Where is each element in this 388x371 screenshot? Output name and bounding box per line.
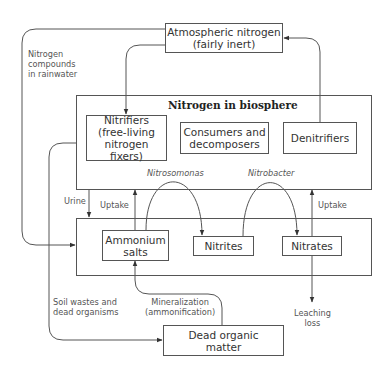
node-nitrates: Nitrates [282, 236, 342, 256]
node-label: (fairly inert) [193, 38, 256, 50]
label-urine: Urine [64, 196, 86, 206]
node-nitrifiers: Nitrifiers (free-living nitrogen fixers) [86, 115, 167, 161]
label-mineralization: Mineralization (ammonification) [145, 297, 215, 317]
node-ammonium-salts: Ammonium salts [102, 230, 169, 261]
node-label: Dead organic [189, 329, 259, 341]
node-label: Nitrifiers [104, 114, 149, 126]
node-label: Denitrifiers [291, 132, 349, 144]
label-uptake-left: Uptake [100, 200, 129, 210]
node-label: Consumers and [183, 126, 265, 138]
label-uptake-right: Uptake [318, 200, 347, 210]
node-label: decomposers [189, 138, 259, 150]
biosphere-title: Nitrogen in biosphere [168, 99, 298, 111]
label-soil-wastes: Soil wastes and dead organisms [53, 297, 118, 317]
node-label: (free-living [98, 126, 155, 138]
node-label: Ammonium [105, 234, 166, 246]
node-label: nitrogen fixers) [87, 138, 166, 162]
node-label: salts [123, 246, 147, 258]
node-label: matter [206, 341, 242, 353]
node-label: Nitrates [291, 240, 333, 252]
node-label: Nitrites [204, 240, 242, 252]
label-nitrobacter: Nitrobacter [248, 168, 294, 178]
label-rainwater: Nitrogen compounds in rainwater [28, 49, 77, 79]
node-nitrites: Nitrites [193, 236, 254, 256]
label-leaching: Leaching loss [294, 308, 331, 328]
node-label: Atmospheric nitrogen [167, 26, 280, 38]
label-nitrosomonas: Nitrosomonas [147, 168, 204, 178]
node-consumers: Consumers and decomposers [180, 122, 269, 154]
node-atmospheric-nitrogen: Atmospheric nitrogen (fairly inert) [165, 23, 283, 53]
node-denitrifiers: Denitrifiers [283, 122, 357, 154]
node-dead-organic-matter: Dead organic matter [163, 325, 284, 356]
